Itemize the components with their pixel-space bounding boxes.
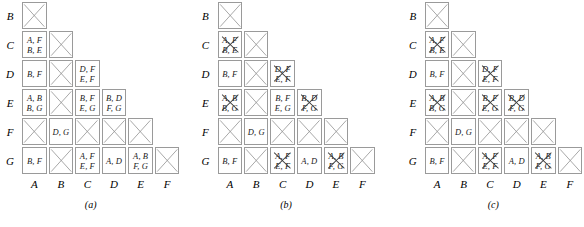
matrix-cell-EB <box>49 89 73 116</box>
row-label-E: E <box>405 89 423 116</box>
matrix-cell-blank <box>128 31 152 58</box>
matrix-cell-BA <box>425 2 449 29</box>
matrix-cell-blank <box>558 60 582 87</box>
cross-x-icon <box>426 119 448 144</box>
matrix-row: EA, B B, GB, F E, GB, D F, G <box>405 89 582 116</box>
row-label-E: E <box>197 89 215 116</box>
row-label-B: B <box>405 2 423 29</box>
cross-x-icon <box>23 119 45 144</box>
row-label-F: F <box>405 118 423 145</box>
cross-x-icon <box>452 148 474 173</box>
row-label-D: D <box>2 60 20 87</box>
cell-text: B, F <box>219 155 241 166</box>
row-label-C: C <box>197 31 215 58</box>
matrix-cell-GD: A, D <box>297 147 322 174</box>
row-label-C: C <box>2 31 20 58</box>
row-label-C: C <box>405 31 423 58</box>
matrix-row: EA, B B, GB, F E, GB, D F, G <box>197 89 374 116</box>
matrix-cell-FC <box>75 118 100 145</box>
cross-x-icon <box>452 61 474 86</box>
cross-x-icon <box>532 119 554 144</box>
matrix-cell-GB <box>451 147 475 174</box>
matrix-row: DB, FD, F E, F <box>405 60 582 87</box>
col-label-D: D <box>297 176 322 193</box>
cross-x-icon <box>219 119 241 144</box>
cross-x-icon <box>245 148 267 173</box>
matrix-cell-blank <box>297 2 322 29</box>
matrix-cell-blank <box>75 2 100 29</box>
matrix-cell-blank <box>102 31 127 58</box>
matrix-cell-DC: D, F E, F <box>478 60 503 87</box>
matrix-cell-GF <box>558 147 582 174</box>
cross-x-icon <box>351 148 373 173</box>
matrix-cell-FD <box>504 118 529 145</box>
col-label-B: B <box>49 176 73 193</box>
cell-text: A, F B, E <box>219 34 241 55</box>
cross-x-icon <box>271 119 294 144</box>
matrix-cell-FA <box>22 118 46 145</box>
matrix-cell-EC: B, F E, G <box>270 89 295 116</box>
matrix-cell-DA: B, F <box>425 60 449 87</box>
cross-x-icon <box>479 119 502 144</box>
matrix-cell-FA <box>425 118 449 145</box>
cell-text: B, D F, G <box>103 92 126 113</box>
matrix-row: B <box>405 2 582 29</box>
col-label-C: C <box>478 176 503 193</box>
cross-x-icon <box>245 90 267 115</box>
cell-text: A, F B, E <box>426 34 448 55</box>
cell-text: D, F E, F <box>76 63 99 84</box>
matrix-cell-blank <box>324 60 348 87</box>
matrix-cell-blank <box>128 89 152 116</box>
col-label-A: A <box>425 176 449 193</box>
matrix-row: FD, G <box>197 118 374 145</box>
cell-text: B, D F, G <box>298 92 321 113</box>
cell-text: A, B B, G <box>219 92 241 113</box>
cell-text: A, D <box>505 155 528 166</box>
matrix-cell-ED: B, D F, G <box>297 89 322 116</box>
cross-x-icon <box>50 32 72 57</box>
cell-text: B, F <box>23 155 45 166</box>
matrix-row: GB, FA, F E, FA, DA, B F, G <box>197 147 374 174</box>
matrix-row: FD, G <box>405 118 582 145</box>
row-label-G: G <box>405 147 423 174</box>
matrix-cell-blank <box>128 2 152 29</box>
matrix-row: GB, FA, F E, FA, DA, B F, G <box>2 147 179 174</box>
triangular-matrix-figure: BCA, F B, EDB, FD, F E, FEA, B B, GB, F … <box>0 0 584 227</box>
matrix-cell-blank <box>531 89 555 116</box>
matrix-grid: BCA, F B, EDB, FD, F E, FEA, B B, GB, F … <box>403 0 584 195</box>
row-label-D: D <box>197 60 215 87</box>
matrix-cell-ED: B, D F, G <box>102 89 127 116</box>
cell-text: A, B F, G <box>129 150 151 171</box>
col-label-E: E <box>324 176 348 193</box>
matrix-cell-blank <box>324 89 348 116</box>
cell-text: B, F <box>23 68 45 79</box>
panel-caption: (c) <box>403 199 584 210</box>
col-label-A: A <box>22 176 46 193</box>
column-label-row: ABCDEF <box>197 176 374 193</box>
corner-spacer <box>197 176 215 193</box>
matrix-cell-GC: A, F E, F <box>478 147 503 174</box>
matrix-cell-blank <box>350 31 374 58</box>
cell-text: D, F E, F <box>271 63 294 84</box>
matrix-cell-FE <box>324 118 348 145</box>
cell-text: B, F <box>426 68 448 79</box>
cell-text: B, F E, G <box>479 92 502 113</box>
panel-b: BCA, F B, EDB, FD, F E, FEA, B B, GB, F … <box>195 0 376 227</box>
matrix-cell-blank <box>531 2 555 29</box>
matrix-row: B <box>197 2 374 29</box>
cross-x-icon <box>452 32 474 57</box>
matrix-cell-blank <box>49 2 73 29</box>
column-label-row: ABCDEF <box>405 176 582 193</box>
matrix-grid: BCA, F B, EDB, FD, F E, FEA, B B, GB, F … <box>0 0 181 195</box>
row-label-G: G <box>197 147 215 174</box>
matrix-grid: BCA, F B, EDB, FD, F E, FEA, B B, GB, F … <box>195 0 376 195</box>
matrix-cell-blank <box>558 2 582 29</box>
cross-x-icon <box>50 148 72 173</box>
matrix-cell-GD: A, D <box>504 147 529 174</box>
matrix-cell-blank <box>270 2 295 29</box>
col-label-B: B <box>451 176 475 193</box>
matrix-row: CA, F B, E <box>405 31 582 58</box>
cross-x-icon <box>298 119 321 144</box>
matrix-cell-blank <box>155 60 179 87</box>
matrix-cell-blank <box>478 31 503 58</box>
